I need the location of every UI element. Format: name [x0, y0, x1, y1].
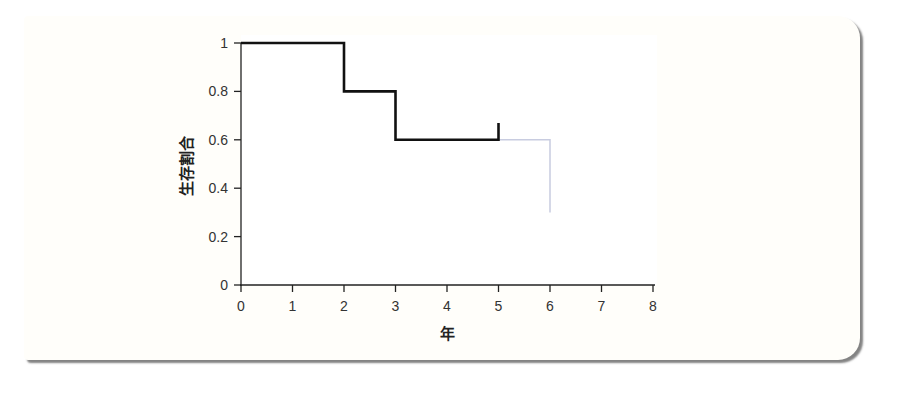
x-tick-label: 5 [495, 298, 503, 314]
y-tick-label: 0.6 [209, 132, 229, 148]
x-tick-label: 6 [546, 298, 554, 314]
y-axis-title: 生存割合 [178, 135, 196, 196]
x-tick-label: 0 [237, 298, 245, 314]
x-tick-label: 7 [598, 298, 606, 314]
x-tick-label: 8 [649, 298, 657, 314]
x-tick-label: 2 [340, 298, 348, 314]
x-tick-label: 4 [443, 298, 451, 314]
y-tick-label: 0.4 [209, 180, 229, 196]
y-axis: 1 0.8 0.6 0.4 0.2 0 生存割合 [178, 35, 241, 293]
x-tick-label: 3 [392, 298, 400, 314]
x-axis-title: 年 [440, 325, 455, 343]
y-tick-label: 0.2 [209, 229, 229, 245]
y-tick-label: 0 [220, 277, 228, 293]
plot-area [241, 35, 657, 285]
y-tick-label: 1 [220, 35, 228, 51]
x-axis: 0 1 2 3 4 5 6 7 8 年 [237, 285, 657, 343]
y-tick-label: 0.8 [209, 83, 229, 99]
survival-chart: 1 0.8 0.6 0.4 0.2 0 生存割合 0 1 2 3 4 5 6 7… [0, 0, 912, 396]
x-tick-label: 1 [289, 298, 297, 314]
